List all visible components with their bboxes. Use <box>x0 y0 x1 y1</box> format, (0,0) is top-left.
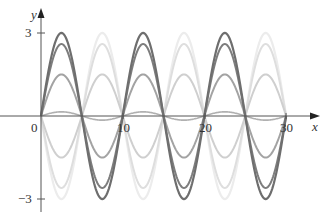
origin-label: 0 <box>31 120 38 135</box>
x-tick-label-30: 30 <box>280 120 293 135</box>
x-tick-label-10: 10 <box>117 120 130 135</box>
x-tick-label-20: 20 <box>199 120 212 135</box>
standing-wave-chart: y 3 −3 0 10 20 30 x <box>0 0 329 219</box>
y-axis-label: y <box>29 7 37 22</box>
x-axis-label: x <box>311 119 318 134</box>
y-tick-label-neg3: −3 <box>18 191 32 206</box>
y-tick-label-3: 3 <box>25 25 32 40</box>
y-axis-arrow-icon <box>38 8 45 18</box>
